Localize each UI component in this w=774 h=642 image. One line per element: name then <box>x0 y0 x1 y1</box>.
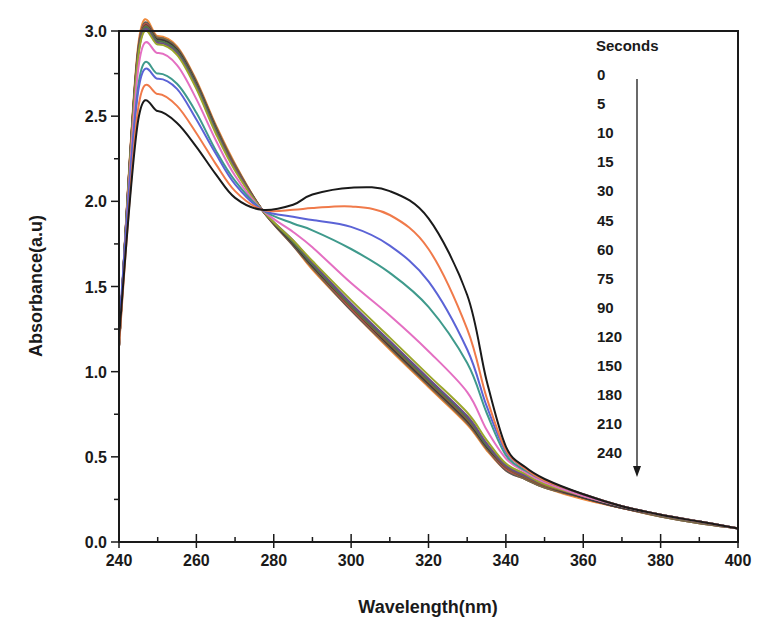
spectrum-240s <box>119 19 738 528</box>
x-tick-label: 260 <box>183 552 210 569</box>
x-tick-label: 320 <box>415 552 442 569</box>
legend-entry: 10 <box>597 124 614 141</box>
legend-entry: 0 <box>597 66 605 83</box>
spectrum-210s <box>119 22 738 528</box>
spectrum-60s <box>119 29 738 529</box>
x-axis-ticks: 240260280300320340360380400 <box>106 534 752 569</box>
y-tick-label: 1.0 <box>85 364 107 381</box>
legend-entry: 210 <box>597 415 622 432</box>
x-tick-label: 400 <box>725 552 752 569</box>
spectrum-180s <box>119 23 738 528</box>
legend-title: Seconds <box>596 37 659 54</box>
legend-entry: 120 <box>597 328 622 345</box>
legend-entry: 240 <box>597 444 622 461</box>
x-tick-label: 360 <box>570 552 597 569</box>
spectrum-75s <box>119 27 738 528</box>
spectrum-150s <box>119 24 738 528</box>
y-tick-label: 0.0 <box>85 534 107 551</box>
legend-entry: 75 <box>597 270 614 287</box>
y-axis-title: Absorbance(a.u) <box>26 215 46 357</box>
time-arrow-icon <box>633 79 641 477</box>
legend: Seconds 0510153045607590120150180210240 <box>596 37 659 477</box>
legend-entry: 150 <box>597 357 622 374</box>
y-tick-label: 2.0 <box>85 193 107 210</box>
spectrum-120s <box>119 25 738 528</box>
spectrum-0s <box>119 100 738 528</box>
spectrum-10s <box>119 68 738 528</box>
x-axis-title: Wavelength(nm) <box>358 597 497 617</box>
x-tick-label: 300 <box>338 552 365 569</box>
x-tick-label: 380 <box>647 552 674 569</box>
plot-frame <box>119 31 738 542</box>
legend-entries: 0510153045607590120150180210240 <box>597 66 622 461</box>
legend-entry: 30 <box>597 182 614 199</box>
spectrum-45s <box>119 31 738 529</box>
legend-entry: 5 <box>597 95 605 112</box>
legend-entry: 15 <box>597 153 614 170</box>
y-axis-ticks: 0.00.51.01.52.02.53.0 <box>85 23 119 551</box>
legend-entry: 90 <box>597 299 614 316</box>
legend-entry: 45 <box>597 212 614 229</box>
y-tick-label: 0.5 <box>85 449 107 466</box>
x-tick-label: 340 <box>493 552 520 569</box>
legend-entry: 180 <box>597 386 622 403</box>
y-tick-label: 2.5 <box>85 108 107 125</box>
absorbance-chart: 240260280300320340360380400 0.00.51.01.5… <box>0 0 774 642</box>
spectra-curves <box>119 19 738 528</box>
y-tick-label: 3.0 <box>85 23 107 40</box>
spectrum-90s <box>119 26 738 529</box>
x-tick-label: 280 <box>260 552 287 569</box>
legend-entry: 60 <box>597 241 614 258</box>
y-tick-label: 1.5 <box>85 279 107 296</box>
x-tick-label: 240 <box>106 552 133 569</box>
